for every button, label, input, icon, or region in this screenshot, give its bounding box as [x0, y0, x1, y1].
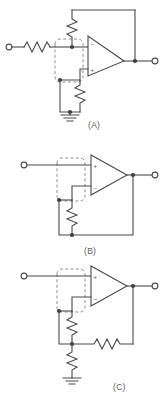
circuit-b-caption: (B)	[84, 246, 96, 256]
circuit-a-opamp-noninverting-sign: +	[91, 67, 95, 73]
circuit-a-input-terminal[interactable]	[6, 44, 12, 50]
circuit-a: – + (A)	[6, 10, 158, 130]
circuit-c-input-terminal[interactable]	[21, 273, 27, 279]
circuit-b-output-terminal[interactable]	[152, 172, 158, 178]
circuit-c-ground-icon	[63, 378, 81, 384]
circuit-c-feedback-resistor	[72, 339, 133, 349]
circuit-b-bottom-node	[70, 233, 74, 237]
circuit-c-inverting-input-lead	[72, 297, 91, 311]
circuit-a-dashed-region	[55, 39, 83, 82]
circuit-b-opamp-noninverting-sign: +	[94, 163, 98, 169]
circuit-a-noninverting-input-lead	[60, 69, 88, 80]
circuit-b-feedback-resistor	[67, 200, 77, 235]
circuit-b-input-terminal[interactable]	[21, 162, 27, 168]
circuit-c-opamp-noninverting-sign: +	[94, 274, 98, 280]
circuit-a-gain-resistor	[75, 80, 85, 112]
circuit-a-output-node	[133, 59, 137, 63]
circuit-figure: – + (A)	[0, 0, 164, 400]
circuit-a-ground-icon	[61, 115, 79, 121]
circuit-c-output-terminal[interactable]	[152, 283, 158, 289]
circuit-a-output-terminal[interactable]	[152, 58, 158, 64]
circuit-b: + – (B)	[21, 155, 158, 256]
circuit-a-feedback-resistor	[67, 10, 77, 47]
circuit-c-lower-divider-resistor	[67, 344, 77, 378]
circuit-a-input-series-resistor	[24, 42, 50, 52]
circuit-a-caption: (A)	[88, 120, 100, 130]
circuit-c-left-rail	[59, 311, 72, 344]
circuit-c: + – (C)	[21, 266, 158, 392]
circuit-b-inverting-input-lead	[72, 186, 91, 200]
circuit-a-ground-rail	[60, 80, 80, 112]
circuit-c-caption: (C)	[113, 382, 126, 392]
circuit-c-upper-divider-resistor	[67, 311, 77, 344]
